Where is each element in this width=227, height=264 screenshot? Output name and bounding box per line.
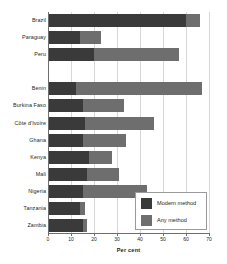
bar-row: [48, 99, 209, 112]
bar-modern-method: [48, 185, 83, 198]
bar-modern-method: [48, 151, 89, 164]
x-axis-line: [48, 233, 209, 234]
x-axis-tick-label: 70: [199, 236, 219, 242]
legend-label-any-method: Any method: [157, 214, 187, 227]
x-axis-tick-label: 10: [61, 236, 81, 242]
bar-modern-method: [48, 99, 83, 112]
x-axis-tick-label: 60: [176, 236, 196, 242]
y-axis-tick-label: Burkina Faso: [0, 99, 46, 112]
y-axis-tick-label: Ghana: [0, 134, 46, 147]
bar-modern-method: [48, 202, 80, 215]
bar-row: [48, 31, 209, 44]
bar-row: [48, 14, 209, 27]
legend-swatch-any-method: [141, 215, 152, 226]
bar-row: [48, 134, 209, 147]
bar-modern-method: [48, 134, 83, 147]
bar-modern-method: [48, 31, 80, 44]
bar-row: [48, 117, 209, 130]
grouped-bar-chart: BrazilParaguayPeruBeninBurkina FasoCôte …: [0, 0, 227, 264]
bar-row: [48, 168, 209, 181]
bar-modern-method: [48, 14, 186, 27]
chart-legend: Modern method Any method: [135, 192, 207, 230]
bar-modern-method: [48, 219, 83, 232]
gridline: [209, 12, 210, 234]
y-axis-line: [48, 12, 49, 234]
x-axis-tick-label: 0: [38, 236, 58, 242]
y-axis-tick-label: Côte d'Ivoire: [0, 117, 46, 130]
x-axis-title: Per cent: [48, 247, 209, 253]
bar-modern-method: [48, 82, 76, 95]
x-axis-tick-label: 20: [84, 236, 104, 242]
bar-row: [48, 48, 209, 61]
y-axis-tick-label: Tanzania: [0, 202, 46, 215]
y-axis-tick-label: Mali: [0, 168, 46, 181]
y-axis-tick-label: Benin: [0, 82, 46, 95]
bar-modern-method: [48, 168, 87, 181]
bar-row: [48, 151, 209, 164]
y-axis-tick-label: Nigeria: [0, 185, 46, 198]
y-axis-tick-label: Zambia: [0, 219, 46, 232]
x-axis-tick-label: 40: [130, 236, 150, 242]
y-axis-tick-label: Peru: [0, 48, 46, 61]
y-axis-tick-label: Paraguay: [0, 31, 46, 44]
bar-row: [48, 82, 209, 95]
y-axis-tick-label: Brazil: [0, 14, 46, 27]
legend-swatch-modern-method: [141, 198, 152, 209]
legend-label-modern-method: Modern method: [157, 197, 196, 210]
x-axis-tick-label: 50: [153, 236, 173, 242]
y-axis-tick-label: Kenya: [0, 151, 46, 164]
bar-modern-method: [48, 48, 94, 61]
x-axis-tick-label: 30: [107, 236, 127, 242]
bar-modern-method: [48, 117, 85, 130]
